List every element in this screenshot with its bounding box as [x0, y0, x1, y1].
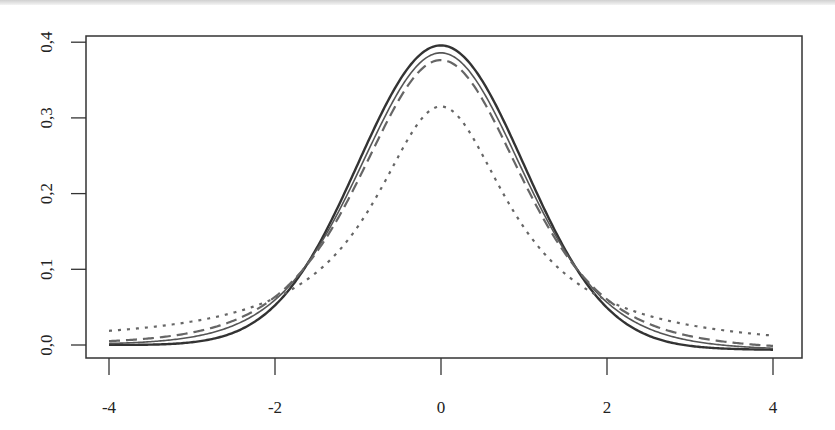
x-tick-label: 0	[437, 398, 446, 417]
series-line-solid-thin	[109, 53, 773, 348]
y-tick-label: 0,4	[37, 31, 56, 53]
x-tick-label: 2	[603, 398, 612, 417]
y-tick-label: 0,2	[37, 183, 56, 204]
y-tick-label: 0,3	[37, 107, 56, 128]
series-line-dotted	[109, 106, 773, 335]
y-tick-label: 0,1	[37, 259, 56, 280]
series-line-solid-thick	[109, 45, 773, 349]
series-line-dashed	[109, 60, 773, 346]
x-tick-label: -4	[102, 398, 117, 417]
x-axis: -4-2024	[102, 358, 778, 417]
y-axis: 0,00,10,20,30,4	[37, 31, 86, 356]
x-tick-label: 4	[769, 398, 778, 417]
y-tick-label: 0,0	[37, 334, 56, 355]
plot-frame	[86, 36, 802, 358]
series-lines	[109, 45, 773, 349]
chart: 0,00,10,20,30,4 -4-2024	[0, 0, 835, 430]
x-tick-label: -2	[268, 398, 282, 417]
